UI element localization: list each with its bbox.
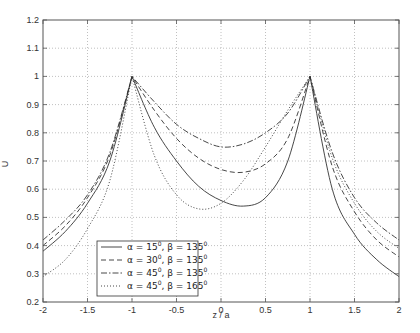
y-tick-label: 0.2 [26, 297, 39, 307]
x-tick-label: -2 [39, 305, 47, 315]
y-tick-label: 0.3 [26, 269, 39, 279]
y-tick-label: 0.6 [26, 184, 39, 194]
y-tick-label: 0.8 [26, 128, 39, 138]
x-tick-label: 0.5 [259, 305, 272, 315]
x-tick-label: -1.5 [80, 305, 96, 315]
x-axis-label: z / a [212, 310, 229, 320]
y-tick-label: 0.9 [26, 100, 39, 110]
y-tick-label: 0.4 [26, 241, 39, 251]
legend-entry: α = 450, β = 1650 [127, 279, 207, 291]
x-tick-label: 1 [307, 305, 312, 315]
x-tick-label: -0.5 [169, 305, 185, 315]
legend-entry: α = 150, β = 1350 [127, 240, 207, 252]
y-tick-label: 0.7 [26, 156, 39, 166]
x-tick-label: -1 [128, 305, 136, 315]
x-tick-label: 2 [396, 305, 401, 315]
y-tick-label: 0.5 [26, 212, 39, 222]
legend: α = 150, β = 1350α = 300, β = 1350α = 45… [97, 240, 207, 296]
y-tick-label: 1.1 [26, 43, 39, 53]
x-tick-label: 1.5 [348, 305, 361, 315]
legend-entry: α = 300, β = 1350 [127, 253, 207, 265]
y-tick-label: 1 [34, 71, 39, 81]
y-tick-labels: 0.20.30.40.50.60.70.80.911.11.2 [26, 15, 39, 307]
line-chart: -2-1.5-1-0.500.511.52 0.20.30.40.50.60.7… [0, 0, 420, 333]
y-axis-label: U [0, 161, 10, 168]
y-tick-label: 1.2 [26, 15, 39, 25]
legend-entry: α = 450, β = 1350 [127, 266, 207, 278]
